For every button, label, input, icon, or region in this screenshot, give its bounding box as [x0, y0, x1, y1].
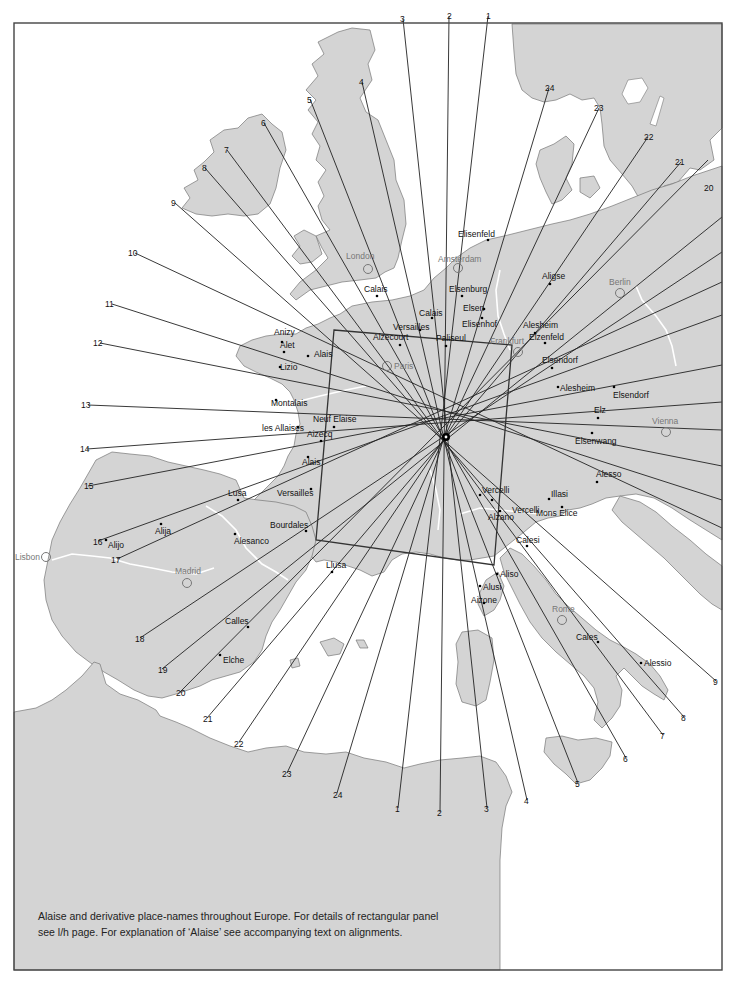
- city-label: Paris: [394, 361, 413, 371]
- place-label: Vercelli: [512, 505, 540, 515]
- place-dot: [640, 662, 643, 665]
- city-label: Amsterdam: [438, 254, 481, 264]
- alignment-number: 21: [203, 714, 213, 724]
- alignment-number: 23: [594, 103, 604, 113]
- caption-line-2: see l/h page. For explanation of ‘Alaise…: [38, 924, 658, 940]
- alignment-number: 6: [261, 118, 266, 128]
- place-label: Vercelli: [482, 485, 510, 495]
- place-dot: [333, 426, 336, 429]
- place-label: Calais: [364, 284, 388, 294]
- alignment-number: 1: [486, 11, 491, 21]
- alignment-number: 24: [545, 83, 555, 93]
- place-dot: [283, 351, 286, 354]
- place-dot: [557, 386, 560, 389]
- alignment-number: 22: [234, 739, 244, 749]
- place-label: Aizone: [471, 595, 497, 605]
- place-dot: [487, 239, 490, 242]
- city-label: Lisbon: [15, 552, 40, 562]
- place-label: Alesanco: [234, 536, 269, 546]
- alignment-number: 5: [575, 779, 580, 789]
- alignment-number: 13: [81, 400, 91, 410]
- place-label: Anizy: [274, 327, 296, 337]
- alignment-number: 8: [202, 163, 207, 173]
- alignment-number: 9: [713, 677, 718, 687]
- alignment-number: 1: [395, 804, 400, 814]
- place-label: Alusi: [483, 582, 502, 592]
- place-dot: [307, 355, 310, 358]
- place-dot: [237, 499, 240, 502]
- alignment-number: 17: [111, 555, 121, 565]
- place-label: Alais: [302, 457, 320, 467]
- place-label: Alijo: [108, 540, 124, 550]
- place-label: Elsendorf: [613, 390, 650, 400]
- place-dot: [597, 417, 600, 420]
- city-label: Madrid: [175, 566, 201, 576]
- alignment-number: 10: [128, 248, 138, 258]
- place-dot: [591, 432, 594, 435]
- place-label: Versailles: [277, 488, 313, 498]
- map-caption: Alaise and derivative place-names throug…: [38, 908, 658, 940]
- alignment-number: 3: [484, 804, 489, 814]
- place-label: Calles: [225, 616, 249, 626]
- alignment-number: 4: [359, 77, 364, 87]
- place-label: Paliseul: [436, 333, 466, 343]
- place-label: Elzenfeld: [529, 332, 564, 342]
- place-label: Alessio: [644, 658, 672, 668]
- place-dot: [105, 539, 108, 542]
- place-label: Calais: [419, 308, 443, 318]
- place-dot: [526, 545, 529, 548]
- place-dot: [247, 626, 250, 629]
- place-label: Llusa: [326, 560, 347, 570]
- place-label: les Allaises: [262, 423, 304, 433]
- place-dot: [544, 342, 547, 345]
- city-label: Rome: [552, 604, 575, 614]
- place-label: Elz: [594, 405, 606, 415]
- alignment-number: 8: [681, 713, 686, 723]
- place-dot: [491, 499, 494, 502]
- place-dot: [549, 283, 552, 286]
- alignment-number: 22: [644, 132, 654, 142]
- place-label: Elisenfeld: [458, 229, 495, 239]
- place-dot: [596, 481, 599, 484]
- place-label: Alzano: [488, 512, 514, 522]
- place-label: Versailles: [393, 322, 429, 332]
- place-label: Elisenhof: [462, 319, 498, 329]
- place-dot: [234, 533, 237, 536]
- city-label: Vienna: [652, 416, 679, 426]
- place-label: Lizio: [280, 362, 298, 372]
- alignment-number: 12: [93, 338, 103, 348]
- alignment-number: 15: [84, 481, 94, 491]
- place-label: Aligse: [542, 271, 565, 281]
- city-label: Frankfurt: [490, 336, 525, 346]
- alignment-number: 19: [158, 665, 168, 675]
- sicily: [544, 736, 612, 784]
- alignment-number: 9: [171, 198, 176, 208]
- europe-alignment-map: LondonAmsterdamBerlinFrankfurtParisVienn…: [0, 0, 742, 987]
- place-label: Calesi: [516, 535, 540, 545]
- alignment-number: 24: [333, 790, 343, 800]
- place-label: Alais: [314, 349, 332, 359]
- place-label: Illasi: [551, 489, 568, 499]
- place-label: Alesso: [596, 469, 622, 479]
- place-label: Alzecourt: [373, 332, 409, 342]
- place-label: Elche: [223, 655, 245, 665]
- place-dot: [613, 386, 616, 389]
- denmark: [536, 136, 574, 204]
- alignment-number: 11: [105, 299, 114, 309]
- alaise-center-highlight: [445, 436, 448, 439]
- place-label: Aliso: [500, 569, 519, 579]
- place-dot: [551, 367, 554, 370]
- alignment-number: 4: [524, 796, 529, 806]
- place-label: Elsenwang: [575, 436, 617, 446]
- place-dot: [496, 573, 499, 576]
- place-dot: [479, 585, 482, 588]
- city-label: London: [346, 251, 375, 261]
- place-dot: [376, 295, 379, 298]
- place-dot: [305, 530, 308, 533]
- place-dot: [219, 654, 222, 657]
- place-label: Elsendorf: [542, 355, 579, 365]
- place-label: Neuf Elaise: [313, 414, 357, 424]
- alignment-number: 7: [224, 145, 229, 155]
- alignment-number: 20: [176, 688, 186, 698]
- place-label: Alija: [155, 526, 171, 536]
